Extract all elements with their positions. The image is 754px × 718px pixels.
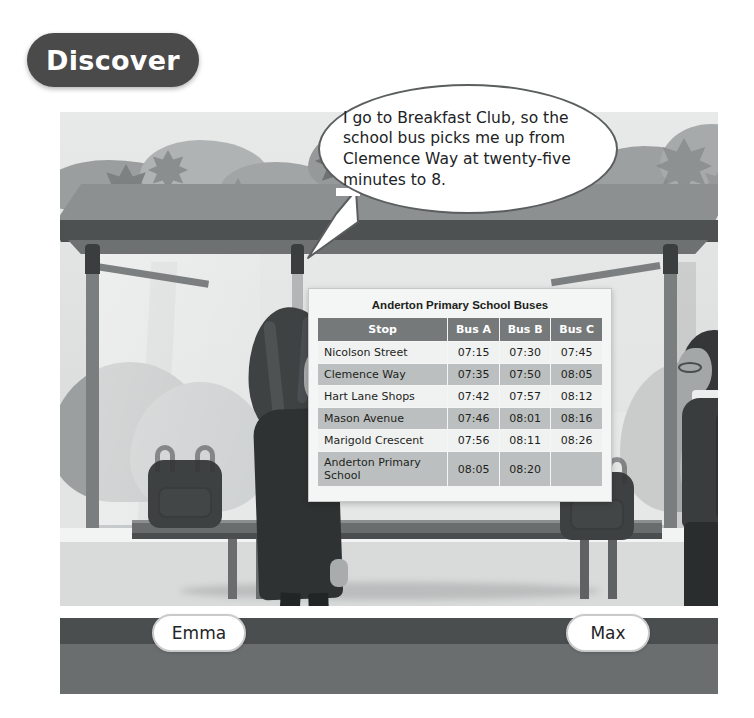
discover-banner-label: Discover xyxy=(46,47,180,74)
speech-bubble: I go to Breakfast Club, so the school bu… xyxy=(318,84,618,214)
timetable-title: Anderton Primary School Buses xyxy=(317,295,603,317)
shelter-post xyxy=(86,244,99,544)
table-row: Hart Lane Shops 07:42 07:57 08:12 xyxy=(318,386,602,407)
cell-stop: Mason Avenue xyxy=(318,408,447,429)
bench-leg xyxy=(580,539,589,599)
cell-bus-b: 07:30 xyxy=(500,342,551,363)
column-header-bus-c: Bus C xyxy=(551,318,602,341)
cell-bus-b: 07:50 xyxy=(500,364,551,385)
speech-bubble-tail xyxy=(306,188,360,260)
max-trousers xyxy=(684,522,718,606)
column-header-stop: Stop xyxy=(318,318,447,341)
bus-timetable-card: Anderton Primary School Buses Stop Bus A… xyxy=(308,288,612,502)
cell-bus-a: 07:35 xyxy=(448,364,499,385)
cell-bus-b: 08:11 xyxy=(500,430,551,451)
shelter-post-cap xyxy=(85,244,100,274)
cell-bus-b: 08:01 xyxy=(500,408,551,429)
max-arm xyxy=(716,410,718,522)
cell-bus-c: 08:12 xyxy=(551,386,602,407)
character-max xyxy=(672,330,718,606)
cell-bus-a: 07:42 xyxy=(448,386,499,407)
name-label-emma: Emma xyxy=(152,614,246,652)
table-header-row: Stop Bus A Bus B Bus C xyxy=(318,318,602,341)
name-label-max: Max xyxy=(566,614,650,652)
max-jacket xyxy=(682,398,718,528)
cell-bus-a: 07:15 xyxy=(448,342,499,363)
glasses-icon xyxy=(678,362,702,373)
table-row: Anderton Primary School 08:05 08:20 xyxy=(318,452,602,486)
cell-bus-a: 07:46 xyxy=(448,408,499,429)
cell-bus-b: 08:20 xyxy=(500,452,551,486)
table-row: Nicolson Street 07:15 07:30 07:45 xyxy=(318,342,602,363)
emma-leg xyxy=(308,593,332,606)
cell-bus-c: 08:26 xyxy=(551,430,602,451)
timetable-table: Stop Bus A Bus B Bus C Nicolson Street 0… xyxy=(317,317,603,487)
table-row: Clemence Way 07:35 07:50 08:05 xyxy=(318,364,602,385)
cell-stop: Clemence Way xyxy=(318,364,447,385)
bench-leg xyxy=(228,539,237,599)
cell-bus-b: 07:57 xyxy=(500,386,551,407)
backpack-strap xyxy=(155,445,174,472)
cell-stop: Anderton Primary School xyxy=(318,452,447,486)
column-header-bus-a: Bus A xyxy=(448,318,499,341)
discover-banner: Discover xyxy=(27,33,199,87)
backpack-strap xyxy=(195,445,214,472)
name-label-max-text: Max xyxy=(590,623,625,643)
table-row: Mason Avenue 07:46 08:01 08:16 xyxy=(318,408,602,429)
shelter-roof-underside xyxy=(68,240,708,254)
cell-stop: Marigold Crescent xyxy=(318,430,447,451)
cell-bus-c: 08:05 xyxy=(551,364,602,385)
shelter-roof-front-edge xyxy=(60,220,718,242)
cell-bus-c xyxy=(551,452,602,486)
backpack-pocket xyxy=(158,487,211,518)
shelter-post-cap xyxy=(291,244,304,274)
cell-stop: Hart Lane Shops xyxy=(318,386,447,407)
cell-bus-a: 08:05 xyxy=(448,452,499,486)
name-label-emma-text: Emma xyxy=(172,623,226,643)
backpack-pocket xyxy=(570,499,623,530)
cell-bus-c: 08:16 xyxy=(551,408,602,429)
column-header-bus-b: Bus B xyxy=(500,318,551,341)
bench-leg xyxy=(608,539,617,599)
cell-bus-c: 07:45 xyxy=(551,342,602,363)
cell-stop: Nicolson Street xyxy=(318,342,447,363)
cell-bus-a: 07:56 xyxy=(448,430,499,451)
shelter-post-cap xyxy=(663,244,678,274)
table-row: Marigold Crescent 07:56 08:11 08:26 xyxy=(318,430,602,451)
backpack-icon xyxy=(148,460,222,528)
emma-hand xyxy=(330,559,348,587)
speech-bubble-text: I go to Breakfast Club, so the school bu… xyxy=(337,108,599,190)
